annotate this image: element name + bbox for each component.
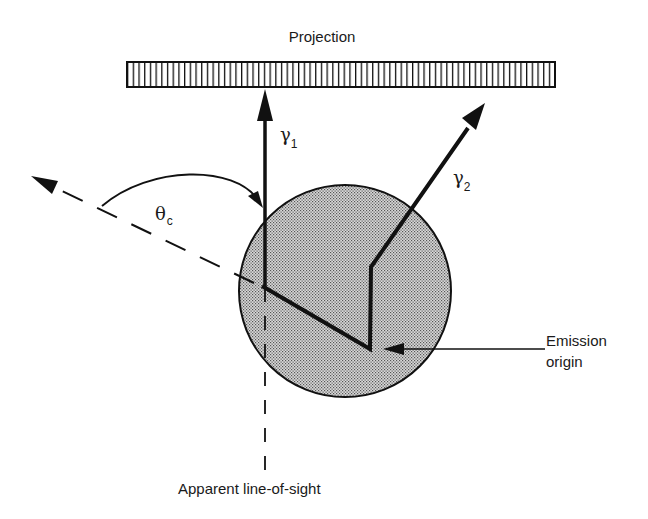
emission-origin-label-line1: Emission xyxy=(546,332,607,349)
gamma2-arrowhead-icon xyxy=(462,103,485,130)
gamma1-label: γ1 xyxy=(280,124,298,151)
gamma2-label: γ2 xyxy=(453,167,471,194)
theta-c-label: θc xyxy=(155,203,173,228)
projection-detector-bar xyxy=(127,62,555,87)
emission-origin-label-line2: origin xyxy=(546,353,583,370)
theta-c-angle-arc xyxy=(102,174,263,208)
gamma1-arrowhead-icon xyxy=(257,89,273,121)
incident-direction-dashed xyxy=(31,176,254,283)
projection-label: Projection xyxy=(289,28,356,45)
dashed-arrowhead-icon xyxy=(31,176,58,194)
compton-scatter-diagram: Projection γ1 γ2 θc Emissio xyxy=(0,0,648,519)
line-of-sight-label: Apparent line-of-sight xyxy=(178,480,321,497)
theta-arc-arrowhead-icon xyxy=(248,191,263,208)
